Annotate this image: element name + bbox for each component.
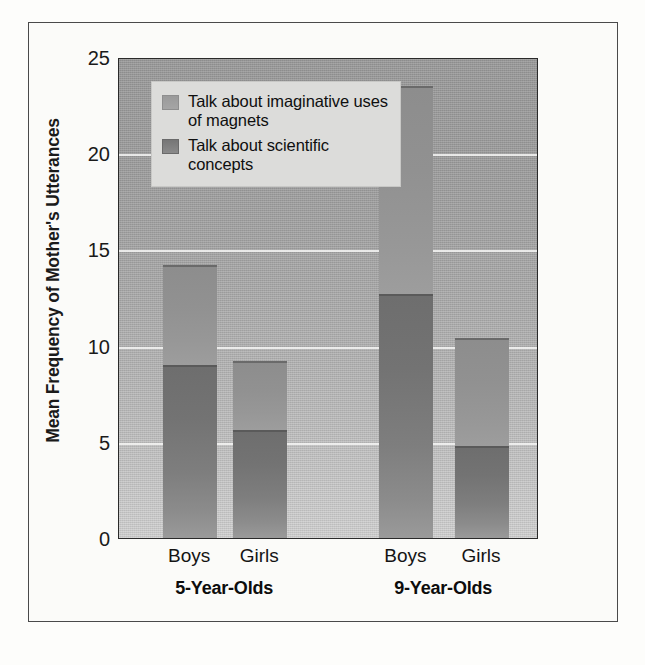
x-group-label-9-year-olds: 9-Year-Olds: [353, 578, 533, 599]
bar-segment-scientific: [163, 365, 217, 538]
y-tick-label-20: 20: [66, 143, 110, 166]
chart-legend: Talk about imaginative uses of magnets T…: [151, 81, 401, 187]
y-tick-label-25: 25: [66, 47, 110, 70]
plot-area: Talk about imaginative uses of magnets T…: [118, 58, 538, 539]
x-group-label-5-year-olds: 5-Year-Olds: [134, 578, 314, 599]
bar-segment-imaginative: [455, 338, 509, 446]
bar-5-year-olds-boys: [163, 265, 217, 538]
x-axis-group-labels: 5-Year-Olds9-Year-Olds: [118, 578, 538, 604]
y-axis-title: Mean Frequency of Mother's Utterances: [43, 116, 64, 446]
y-tick-label-0: 0: [66, 528, 110, 551]
bar-segment-imaginative: [233, 361, 287, 430]
legend-item-scientific: Talk about scientific concepts: [162, 136, 390, 175]
bar-segment-scientific: [455, 446, 509, 538]
x-axis-tick-labels: BoysGirlsBoysGirls: [118, 545, 538, 571]
y-tick-label-5: 5: [66, 431, 110, 454]
y-tick-label-15: 15: [66, 239, 110, 262]
bar-9-year-olds-girls: [455, 338, 509, 538]
gridline-15: [119, 250, 537, 252]
x-tick-label-1-girls: Girls: [214, 545, 304, 567]
legend-swatch-scientific-icon: [162, 139, 179, 154]
legend-label-scientific: Talk about scientific concepts: [188, 136, 390, 175]
legend-item-imaginative: Talk about imaginative uses of magnets: [162, 92, 390, 131]
figure-root: Mean Frequency of Mother's Utterances 05…: [0, 0, 645, 665]
y-tick-label-10: 10: [66, 335, 110, 358]
x-tick-label-3-girls: Girls: [436, 545, 526, 567]
bar-segment-imaginative: [163, 265, 217, 365]
y-axis-tick-labels: 0510152025: [62, 58, 110, 539]
legend-label-imaginative: Talk about imaginative uses of magnets: [188, 92, 390, 131]
bar-5-year-olds-girls: [233, 361, 287, 538]
bar-segment-scientific: [233, 430, 287, 538]
legend-swatch-imaginative-icon: [162, 95, 179, 110]
bar-segment-scientific: [379, 294, 433, 538]
